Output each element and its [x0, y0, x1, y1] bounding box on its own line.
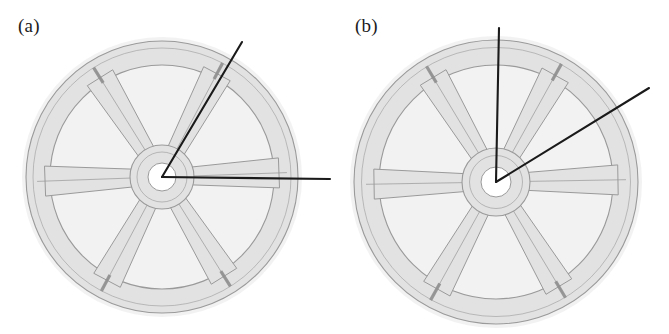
panel-a: (a): [0, 0, 334, 334]
figure-root: (a) (b): [0, 0, 669, 334]
panel-b: (b): [335, 0, 669, 334]
wheel-a-graphic: [0, 0, 334, 334]
wheel-b-graphic: [335, 0, 669, 334]
